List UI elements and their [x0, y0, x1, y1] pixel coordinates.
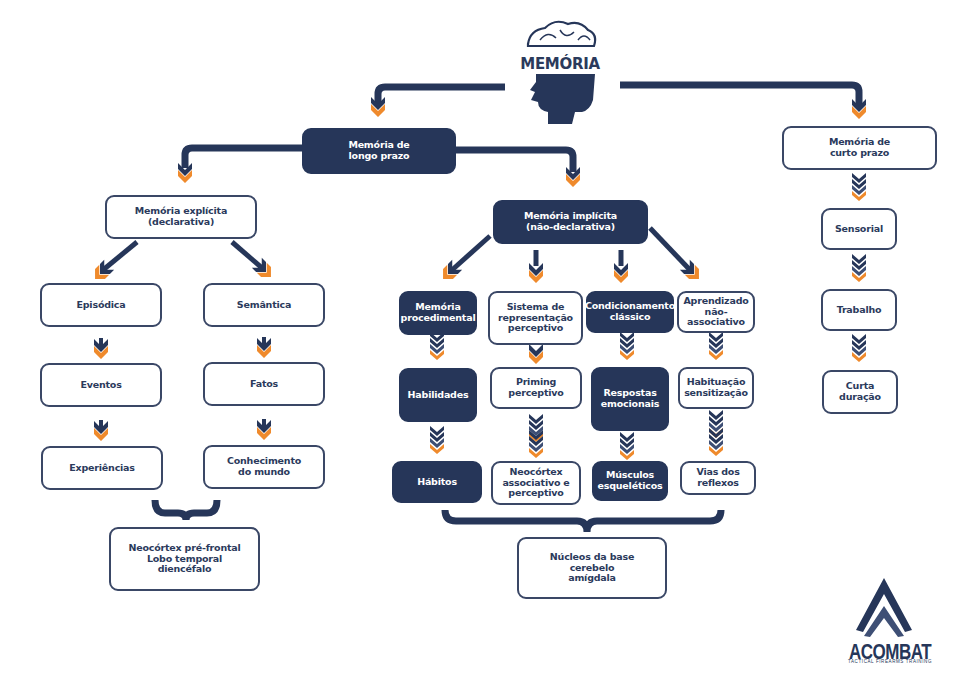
- node-priming-perceptivo: Priming perceptivo: [490, 367, 582, 409]
- node-semantica: Semântica: [203, 283, 325, 327]
- node-experiencias: Experiências: [41, 446, 163, 490]
- logo-tagline: TACTICAL FIREARMS TRAINING: [840, 659, 940, 664]
- node-habitos: Hábitos: [392, 461, 482, 503]
- chevron-a-logo-icon: [856, 578, 912, 637]
- node-vias-dos-reflexos: Vias dos reflexos: [680, 461, 756, 495]
- link-memoria-curto: [620, 85, 859, 106]
- node-trabalho: Trabalho: [821, 289, 897, 331]
- node-memoria-implicita: Memória implícita (não-declarativa): [493, 200, 648, 244]
- diagram-title: MEMÓRIA: [515, 55, 605, 73]
- link-longo-implicita: [455, 150, 573, 172]
- node-aprendizado-nao-associativo: Aprendizado não-associativo: [677, 291, 755, 333]
- node-memoria-procedimental: Memória procedimental: [399, 291, 477, 335]
- link-implicita-aprendizado: [650, 228, 690, 270]
- link-explicita-episodica: [103, 242, 137, 270]
- node-memoria-longo-prazo: Memória de longo prazo: [302, 128, 456, 174]
- chevron-icon: [620, 332, 634, 360]
- chevron-icon: [430, 332, 444, 360]
- node-eventos: Eventos: [40, 363, 162, 407]
- node-habilidades: Habilidades: [399, 368, 477, 422]
- chevron-icon: [430, 426, 444, 454]
- node-curta-duracao: Curta duração: [822, 370, 898, 414]
- node-respostas-emocionais: Respostas emocionais: [591, 367, 669, 431]
- chevron-icon: [709, 410, 723, 438]
- node-condicionamento-classico: Condicionamento clássico: [586, 291, 674, 333]
- link-longo-explicita: [185, 148, 305, 168]
- node-episodica: Episódica: [40, 283, 162, 327]
- chevron-icon: [852, 254, 866, 282]
- chevron-icon: [852, 173, 866, 201]
- node-areas-explicita: Neocórtex pré-frontal Lobo temporal dien…: [109, 527, 260, 591]
- node-conhecimento-do-mundo: Conhecimento do mundo: [203, 445, 325, 489]
- link-memoria-longo: [378, 87, 505, 104]
- node-habituacao-sensitizacao: Habituação sensitização: [678, 367, 754, 409]
- node-areas-implicita: Núcleos da base cerebelo amígdala: [517, 537, 667, 599]
- arrow-icon: [529, 344, 543, 364]
- chevron-icon: [852, 334, 866, 362]
- node-sistema-representacao: Sistema de representação perceptivo: [488, 291, 583, 345]
- node-memoria-explicita: Memória explícita (declarativa): [105, 195, 257, 239]
- brace-implicita: [445, 510, 721, 532]
- chevron-icon: [709, 332, 723, 360]
- node-neocortex-associativo: Neocórtex associativo e perceptivo: [491, 461, 581, 505]
- chevron-icon: [709, 428, 723, 456]
- brace-explicita: [155, 500, 217, 520]
- node-musculos-esqueleticos: Músculos esqueléticos: [592, 461, 668, 501]
- memory-diagram: MEMÓRIA Memória de longo prazo Memória d…: [0, 0, 966, 690]
- chevron-icon: [620, 432, 634, 460]
- node-memoria-curto-prazo: Memória de curto prazo: [782, 126, 937, 170]
- node-sensorial: Sensorial: [821, 208, 897, 250]
- link-implicita-procedimental: [452, 236, 490, 270]
- node-fatos: Fatos: [203, 362, 325, 406]
- link-explicita-semantica: [232, 242, 262, 268]
